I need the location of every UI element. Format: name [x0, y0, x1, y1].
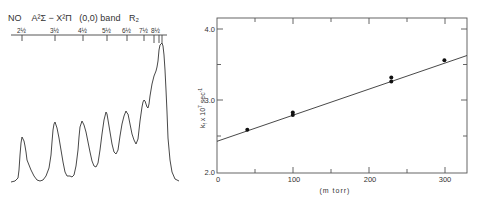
tick-label: 4½ [78, 27, 88, 34]
y-tick-label: 3.0 [205, 96, 215, 105]
tick-label: 7½ [139, 27, 149, 34]
tick-label: 2½ [17, 27, 27, 34]
tick-label: 3½ [50, 27, 60, 34]
plot-frame [217, 18, 467, 173]
rotational-tick-labels: 2½ 3½ 4½ 5½ 6½ 7½ 8½ [17, 27, 161, 34]
tick-label: 6½ [122, 27, 132, 34]
y-axis-label: kf x 107 sec-1 [197, 88, 208, 128]
spectrum-plot: NO A²Σ − X²Π (0,0) band R₂ 2½ 3½ 4½ 5½ 6… [8, 13, 179, 182]
data-point [245, 128, 249, 132]
rate-plot: 2.0 3.0 4.0 0 100 200 300 (m torr) [197, 18, 467, 195]
x-tick-label: 100 [288, 175, 301, 184]
linear-fit-line [217, 56, 467, 142]
figure: NO A²Σ − X²Π (0,0) band R₂ 2½ 3½ 4½ 5½ 6… [0, 0, 478, 202]
spectrum-title: NO A²Σ − X²Π (0,0) band R₂ [8, 13, 139, 23]
x-tick-labels: 0 100 200 300 [216, 175, 451, 184]
data-point [442, 58, 446, 62]
y-tick-label: 2.0 [205, 168, 215, 177]
spectrum-trace [11, 43, 179, 182]
y-tick-marks [217, 29, 467, 136]
tick-label: 8½ [151, 27, 161, 34]
data-point [389, 76, 393, 80]
tick-label: 5½ [102, 27, 112, 34]
data-point [291, 111, 295, 115]
x-tick-label: 0 [216, 175, 220, 184]
x-tick-label: 300 [439, 175, 452, 184]
data-point [389, 79, 393, 83]
y-tick-labels: 2.0 3.0 4.0 [205, 25, 215, 177]
x-axis-label: (m torr) [320, 187, 351, 195]
y-tick-label: 4.0 [205, 25, 215, 34]
x-tick-label: 200 [364, 175, 377, 184]
rotational-tick-marks [22, 35, 162, 43]
